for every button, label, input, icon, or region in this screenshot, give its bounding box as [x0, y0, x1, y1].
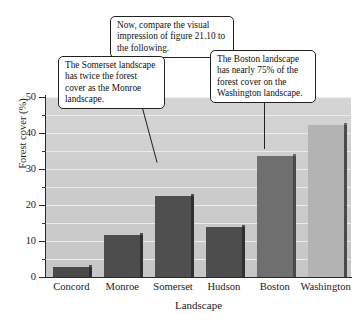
gridline: [46, 151, 351, 152]
bar-side-shadow: [191, 196, 194, 277]
y-axis-title: Forest cover (%): [17, 74, 28, 194]
callout-top-text: Now, compare the visual impression of fi…: [117, 20, 228, 54]
x-axis-title: Landscape: [46, 299, 351, 311]
callout-somerset-text: The Somerset landscape has twice the for…: [65, 60, 159, 105]
bar: [53, 267, 89, 277]
gridline: [46, 133, 351, 134]
callout-boston: The Boston landscape has nearly 75% of t…: [210, 50, 316, 103]
y-tick-major: [39, 205, 46, 206]
bar: [155, 196, 191, 277]
x-tick-label: Washington: [286, 281, 360, 292]
y-tick-minor: [42, 187, 47, 188]
figure-container: 01020304050 ConcordMonroeSomersetHudsonB…: [0, 0, 360, 323]
y-tick-major: [39, 277, 46, 278]
bar-face: [257, 156, 293, 277]
bar-side-shadow: [140, 235, 143, 277]
y-tick-major: [39, 169, 46, 170]
y-tick-major: [39, 97, 46, 98]
bar-side-shadow: [242, 227, 245, 277]
gridline: [46, 169, 351, 170]
gridline: [46, 259, 351, 260]
bar-face: [155, 196, 191, 277]
y-tick-minor: [42, 151, 47, 152]
bar-top-edge: [140, 233, 143, 235]
y-tick-minor: [42, 115, 47, 116]
bar-face: [53, 267, 89, 277]
y-tick-minor: [42, 223, 47, 224]
bar: [206, 227, 242, 277]
gridline: [46, 205, 351, 206]
gridline: [46, 187, 351, 188]
bar-top-edge: [89, 265, 92, 267]
bar-face: [104, 235, 140, 277]
bar: [308, 125, 344, 277]
gridline: [46, 241, 351, 242]
bar: [104, 235, 140, 277]
x-axis-line: [45, 277, 352, 278]
bar-side-shadow: [89, 267, 92, 277]
bar-side-shadow: [344, 125, 347, 277]
bar-top-edge: [293, 154, 296, 156]
gridline: [46, 223, 351, 224]
bar: [257, 156, 293, 277]
bar-top-edge: [191, 194, 194, 196]
gridline: [46, 115, 351, 116]
bar-top-edge: [344, 123, 347, 125]
y-tick-label: 10: [0, 236, 36, 247]
y-tick-label: 20: [0, 200, 36, 211]
y-tick-major: [39, 133, 46, 134]
plot-area: [46, 97, 351, 277]
y-tick-minor: [42, 259, 47, 260]
bar-top-edge: [242, 225, 245, 227]
callout-somerset: The Somerset landscape has twice the for…: [58, 56, 165, 109]
bar-face: [308, 125, 344, 277]
bar-side-shadow: [293, 156, 296, 277]
bar-face: [206, 227, 242, 277]
callout-boston-text: The Boston landscape has nearly 75% of t…: [217, 54, 310, 99]
y-tick-major: [39, 241, 46, 242]
boston-leader-line: [264, 103, 265, 149]
